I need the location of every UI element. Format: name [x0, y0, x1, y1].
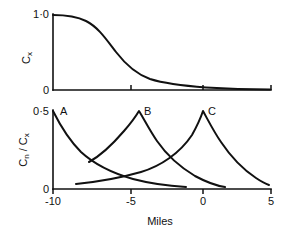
lower-ylabel-sub-2: x	[22, 133, 31, 137]
lower-panel: 0·5 0 Cn / Cx A B C -10 -5 0 5	[17, 105, 274, 227]
curve-label-a: A	[60, 105, 68, 117]
lower-ytick-label-bottom: 0	[43, 183, 49, 195]
figure-container: 1·0 0 Cx 0·5 0	[0, 0, 287, 234]
x-axis-title: Miles	[147, 215, 173, 227]
lower-curve-a	[53, 111, 186, 187]
upper-ytick-label-top: 1·0	[33, 8, 49, 20]
svg-text:Cx: Cx	[20, 52, 34, 64]
lower-curve-c	[76, 111, 269, 185]
lower-curve-b	[89, 111, 225, 187]
upper-panel: 1·0 0 Cx	[20, 8, 271, 96]
lower-ylabel-main-1: C	[17, 159, 29, 167]
curve-label-b: B	[144, 105, 151, 117]
upper-y-axis-title: Cx	[20, 52, 34, 64]
lower-ylabel-main-2: C	[17, 137, 29, 145]
curve-label-c: C	[208, 105, 216, 117]
lower-y-axis-title: Cn / Cx	[17, 133, 31, 167]
xtick-label-5: 5	[268, 195, 274, 207]
upper-ylabel-sub: x	[25, 52, 34, 56]
xtick-label-0: 0	[200, 195, 206, 207]
lower-ytick-label-top: 0·5	[33, 105, 49, 117]
svg-text:Cn / Cx: Cn / Cx	[17, 133, 31, 167]
upper-ytick-label-bottom: 0	[43, 84, 49, 96]
lower-ylabel-sep: /	[17, 145, 29, 154]
xtick-label--5: -5	[126, 195, 136, 207]
upper-ylabel-main: C	[20, 56, 32, 64]
scientific-figure: 1·0 0 Cx 0·5 0	[0, 0, 287, 234]
xtick-label--10: -10	[45, 195, 61, 207]
upper-curve-cx	[53, 15, 270, 90]
